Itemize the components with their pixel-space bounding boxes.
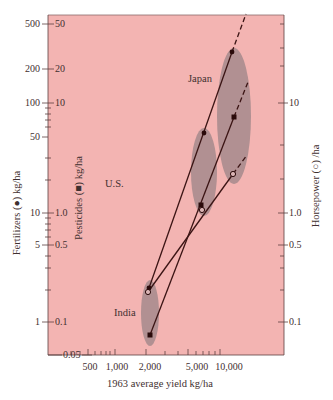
svg-text:50: 50 bbox=[30, 131, 40, 142]
horsepower-tick-labels: 10 1.0 0.5 0.1 bbox=[289, 97, 302, 327]
india-horsepower-point bbox=[145, 289, 150, 294]
svg-text:0.1: 0.1 bbox=[289, 316, 302, 327]
pesticide-axis-title: Pesticides (■) kg/ha bbox=[73, 156, 85, 240]
x-axis-title: 1963 average yield kg/ha bbox=[107, 378, 213, 389]
india-label: India bbox=[114, 307, 136, 318]
svg-text:50: 50 bbox=[55, 18, 65, 29]
svg-text:5,000: 5,000 bbox=[186, 361, 209, 372]
svg-text:100: 100 bbox=[25, 97, 40, 108]
japan-label: Japan bbox=[188, 73, 213, 84]
svg-text:20: 20 bbox=[55, 63, 65, 74]
x-tick-labels: 500 1,000 2,000 5,000 10,000 bbox=[83, 361, 243, 372]
svg-text:2,000: 2,000 bbox=[139, 361, 162, 372]
svg-text:0.5: 0.5 bbox=[55, 239, 68, 250]
us-fertilizer-point bbox=[202, 131, 207, 136]
svg-text:500: 500 bbox=[25, 18, 40, 29]
us-horsepower-point bbox=[199, 207, 204, 212]
svg-text:5: 5 bbox=[35, 239, 40, 250]
svg-text:200: 200 bbox=[25, 63, 40, 74]
svg-text:10,000: 10,000 bbox=[215, 361, 243, 372]
svg-text:0.1: 0.1 bbox=[55, 316, 68, 327]
japan-horsepower-point bbox=[230, 171, 235, 176]
japan-fertilizer-point bbox=[230, 50, 235, 55]
fertilizer-tick-labels: 500 200 100 50 10 5 1 bbox=[25, 18, 40, 327]
us-pesticide-point bbox=[199, 203, 204, 208]
yield-inputs-chart: Japan U.S. India 500 200 100 50 10 5 1 bbox=[0, 0, 333, 400]
svg-text:0.5: 0.5 bbox=[289, 239, 302, 250]
svg-text:10: 10 bbox=[30, 207, 40, 218]
svg-text:500: 500 bbox=[83, 361, 98, 372]
fertilizer-axis-title: Fertilizers (●) kg/ha bbox=[11, 170, 23, 255]
japan-pesticide-point bbox=[232, 115, 237, 120]
horsepower-axis-title: Horsepower (○) /ha bbox=[310, 144, 322, 227]
us-label: U.S. bbox=[105, 178, 124, 189]
svg-text:1: 1 bbox=[35, 316, 40, 327]
svg-text:10: 10 bbox=[289, 97, 299, 108]
svg-text:1.0: 1.0 bbox=[289, 207, 302, 218]
svg-text:0.05: 0.05 bbox=[63, 349, 81, 360]
india-pesticide-point bbox=[148, 333, 153, 338]
svg-text:1.0: 1.0 bbox=[55, 207, 68, 218]
svg-text:1,000: 1,000 bbox=[106, 361, 129, 372]
svg-text:10: 10 bbox=[55, 97, 65, 108]
